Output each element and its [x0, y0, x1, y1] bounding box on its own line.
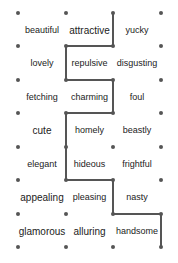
- grid-dot[interactable]: [111, 245, 115, 249]
- word-cell: fetching: [26, 92, 58, 102]
- grid-dot[interactable]: [64, 111, 68, 115]
- grid-dot[interactable]: [64, 11, 68, 15]
- grid-dot[interactable]: [159, 11, 163, 15]
- word-cell: attractive: [69, 24, 110, 35]
- word-cell: elegant: [27, 159, 57, 169]
- grid-dot[interactable]: [111, 111, 115, 115]
- word-cell: glamorous: [19, 225, 66, 236]
- grid-dot[interactable]: [64, 178, 68, 182]
- word-cell: foul: [130, 92, 145, 102]
- word-cell: charming: [71, 92, 108, 102]
- grid-dot[interactable]: [16, 11, 20, 15]
- word-cell: nasty: [126, 192, 148, 202]
- grid-dot[interactable]: [111, 145, 115, 149]
- grid-dot[interactable]: [16, 245, 20, 249]
- grid-dot[interactable]: [159, 212, 163, 216]
- word-cell: frightful: [122, 159, 152, 169]
- grid-dot[interactable]: [16, 44, 20, 48]
- word-cell: repulsive: [71, 58, 107, 68]
- grid-dot[interactable]: [159, 245, 163, 249]
- grid-dot[interactable]: [64, 245, 68, 249]
- word-cell: cute: [33, 125, 52, 136]
- grid-dot[interactable]: [159, 44, 163, 48]
- word-cell: alluring: [73, 225, 105, 236]
- grid-dot[interactable]: [16, 145, 20, 149]
- grid-dot[interactable]: [159, 111, 163, 115]
- grid-dot[interactable]: [159, 78, 163, 82]
- word-cell: hideous: [74, 159, 106, 169]
- grid-dot[interactable]: [111, 78, 115, 82]
- word-cell: yucky: [125, 25, 148, 35]
- word-cell: lovely: [30, 58, 53, 68]
- word-cell: pleasing: [73, 192, 107, 202]
- word-cell: beautiful: [25, 25, 59, 35]
- grid-dot[interactable]: [111, 212, 115, 216]
- grid-dot[interactable]: [111, 11, 115, 15]
- word-maze-board: beautifulattractiveyuckylovelyrepulsived…: [0, 0, 178, 263]
- grid-dot[interactable]: [16, 111, 20, 115]
- grid-dot[interactable]: [159, 145, 163, 149]
- word-cell: beastly: [123, 125, 152, 135]
- grid-dot[interactable]: [64, 78, 68, 82]
- grid-dot[interactable]: [16, 178, 20, 182]
- word-cell: handsome: [116, 226, 158, 236]
- grid-dot[interactable]: [111, 178, 115, 182]
- grid-dot[interactable]: [64, 44, 68, 48]
- grid-dot[interactable]: [16, 212, 20, 216]
- word-cell: disgusting: [117, 58, 158, 68]
- grid-dot[interactable]: [64, 145, 68, 149]
- word-cell: appealing: [20, 192, 63, 203]
- grid-dot[interactable]: [159, 178, 163, 182]
- grid-dot[interactable]: [64, 212, 68, 216]
- grid-dot[interactable]: [16, 78, 20, 82]
- word-cell: homely: [75, 125, 104, 135]
- grid-dot[interactable]: [111, 44, 115, 48]
